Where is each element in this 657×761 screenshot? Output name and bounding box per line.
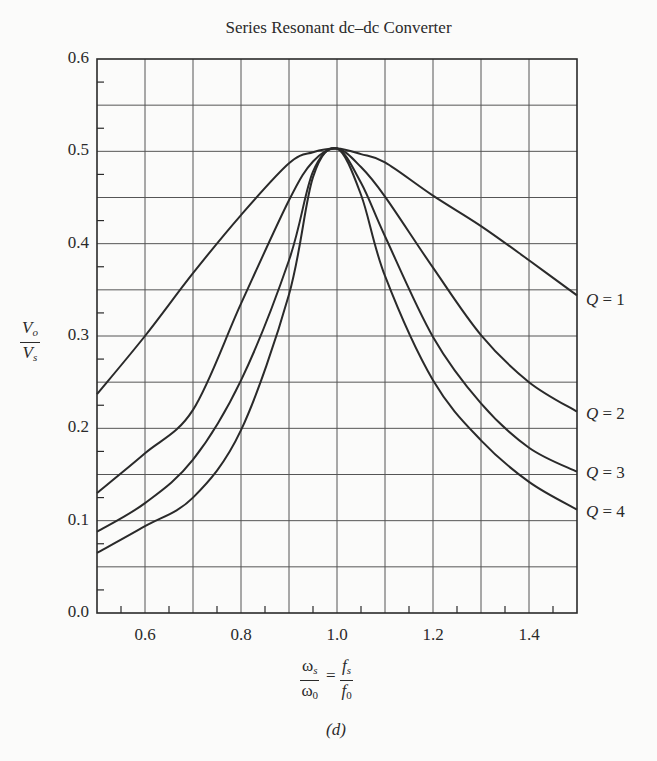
x-tick-label: 1.0 bbox=[317, 625, 357, 645]
x-tick-label: 0.8 bbox=[221, 625, 261, 645]
legend-q4: Q = 4 bbox=[586, 502, 625, 522]
y-tick-label: 0.6 bbox=[49, 48, 89, 68]
y-tick-label: 0.1 bbox=[49, 510, 89, 530]
x-label-omega-0: ω bbox=[301, 681, 312, 700]
y-label-den-sub: s bbox=[33, 351, 37, 363]
axis-ticks bbox=[97, 82, 553, 613]
y-axis-label: Vo Vs bbox=[20, 318, 40, 367]
x-tick-label: 0.6 bbox=[125, 625, 165, 645]
chart-plot bbox=[0, 0, 657, 761]
x-tick-label: 1.2 bbox=[413, 625, 453, 645]
x-label-equals: = bbox=[326, 666, 336, 686]
x-tick-label: 1.4 bbox=[509, 625, 549, 645]
legend-q1: Q = 1 bbox=[586, 290, 625, 310]
x-label-omega-s: ω bbox=[302, 656, 313, 675]
x-label-sub-0: 0 bbox=[313, 689, 319, 701]
legend-q3: Q = 3 bbox=[586, 463, 625, 483]
y-label-numerator: V bbox=[22, 318, 32, 337]
legend-q2: Q = 2 bbox=[586, 404, 625, 424]
y-label-num-sub: o bbox=[32, 326, 38, 338]
x-label-f-sub-s: s bbox=[347, 664, 351, 676]
y-tick-label: 0.2 bbox=[49, 417, 89, 437]
y-tick-label: 0.3 bbox=[49, 325, 89, 345]
x-label-f-sub-0: 0 bbox=[346, 689, 352, 701]
x-label-sub-s: s bbox=[313, 664, 317, 676]
figure-caption: (d) bbox=[306, 720, 366, 740]
chart-title: Series Resonant dc–dc Converter bbox=[0, 18, 657, 38]
y-tick-label: 0.5 bbox=[49, 140, 89, 160]
y-tick-label: 0.4 bbox=[49, 233, 89, 253]
y-tick-label: 0.0 bbox=[49, 602, 89, 622]
grid-lines bbox=[97, 59, 577, 613]
y-label-denominator: V bbox=[23, 343, 33, 362]
